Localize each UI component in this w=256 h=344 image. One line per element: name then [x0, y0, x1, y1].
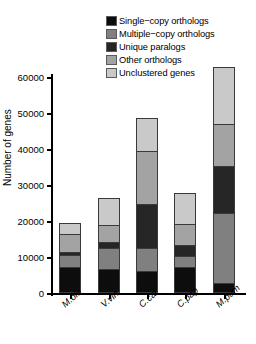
- bar-c-cal[interactable]: [136, 118, 158, 293]
- y-tick-label: 10000: [18, 252, 44, 263]
- bar-c-pap[interactable]: [174, 193, 196, 293]
- stacked-bar-chart-figure: Single−copy orthologsMultiple−copy ortho…: [0, 0, 256, 344]
- legend-item-label: Unique paralogs: [119, 42, 185, 52]
- legend-item[interactable]: Single−copy orthologs: [106, 14, 252, 27]
- y-tick-mark: [47, 221, 51, 223]
- legend-item[interactable]: Other orthologs: [106, 54, 252, 67]
- y-tick-mark: [47, 293, 51, 295]
- y-tick-mark: [47, 257, 51, 259]
- legend-item[interactable]: Multiple−copy orthologs: [106, 27, 252, 40]
- y-tick-label: 0: [39, 288, 44, 299]
- legend-item[interactable]: Unique paralogs: [106, 40, 252, 53]
- bar-segment[interactable]: [213, 166, 235, 214]
- legend-swatch-icon: [106, 42, 117, 52]
- legend-item-label: Multiple−copy orthologs: [119, 29, 215, 39]
- y-tick-label: 60000: [18, 72, 44, 83]
- y-tick-mark: [47, 149, 51, 151]
- bar-segment[interactable]: [213, 67, 235, 124]
- plot-area: 0100002000030000400005000060000: [51, 77, 243, 293]
- bar-m-pum[interactable]: [213, 67, 235, 293]
- legend-swatch-icon: [106, 16, 117, 26]
- bar-segment[interactable]: [98, 248, 120, 269]
- bar-segment[interactable]: [59, 255, 81, 267]
- bar-segment[interactable]: [136, 118, 158, 150]
- y-tick-mark: [47, 113, 51, 115]
- bar-segment[interactable]: [174, 256, 196, 267]
- bar-segment[interactable]: [136, 151, 158, 204]
- legend-item-label: Single−copy orthologs: [119, 16, 209, 26]
- legend-item-label: Other orthologs: [119, 55, 182, 65]
- bar-v-vin[interactable]: [98, 198, 120, 293]
- legend-swatch-icon: [106, 29, 117, 39]
- bar-segment[interactable]: [213, 213, 235, 283]
- bar-segment[interactable]: [136, 248, 158, 271]
- y-tick-label: 30000: [18, 180, 44, 191]
- y-axis-title: Number of genes: [2, 109, 13, 186]
- bar-segment[interactable]: [136, 204, 158, 248]
- y-tick-label: 20000: [18, 216, 44, 227]
- y-tick-mark: [47, 185, 51, 187]
- y-tick-mark: [47, 77, 51, 79]
- bar-segment[interactable]: [98, 198, 120, 224]
- bar-segment[interactable]: [98, 225, 120, 243]
- legend-swatch-icon: [106, 55, 117, 65]
- bar-segment[interactable]: [174, 245, 196, 257]
- y-tick-label: 50000: [18, 108, 44, 119]
- bar-segment[interactable]: [59, 234, 81, 253]
- bar-segment[interactable]: [98, 269, 120, 293]
- bar-segment[interactable]: [174, 224, 196, 245]
- bar-segment[interactable]: [59, 223, 81, 234]
- y-tick-label: 40000: [18, 144, 44, 155]
- bar-segment[interactable]: [174, 193, 196, 224]
- bar-m-ole[interactable]: [59, 223, 81, 293]
- bar-segment[interactable]: [213, 124, 235, 165]
